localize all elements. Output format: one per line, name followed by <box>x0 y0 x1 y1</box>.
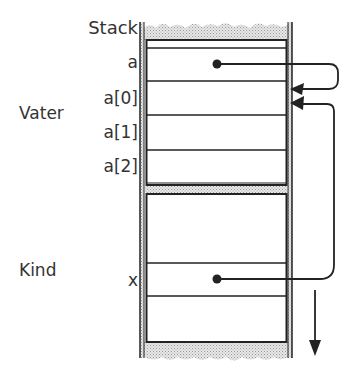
slot-label-a1: a[1] <box>90 124 138 141</box>
frame-label-kind: Kind <box>19 262 56 279</box>
stack-bottom-hatch <box>144 342 290 361</box>
frame-separator <box>145 186 287 193</box>
slot-label-x: x <box>110 272 138 289</box>
slot-label-a0: a[0] <box>90 90 138 107</box>
stack-top-hatch <box>144 23 290 40</box>
slot-label-a: a <box>100 54 138 71</box>
growth-direction-arrow <box>309 290 321 356</box>
frame-kind <box>146 194 287 342</box>
frame-label-vater: Vater <box>19 105 64 122</box>
stack-diagram <box>0 0 356 369</box>
slot-label-a2: a[2] <box>90 158 138 175</box>
stack-title: Stack <box>80 19 138 37</box>
